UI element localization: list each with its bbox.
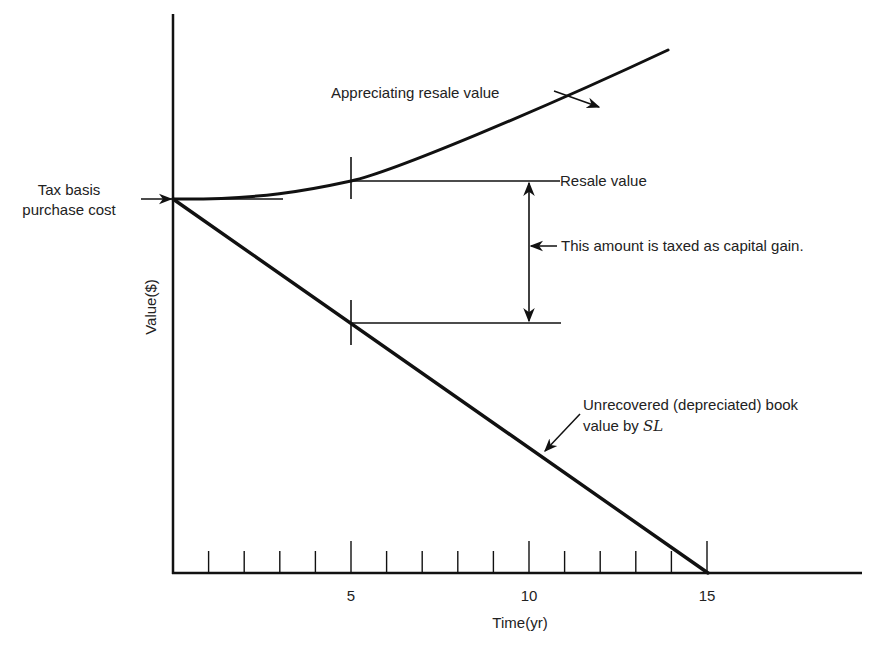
y-axis-label: Value($): [142, 279, 159, 335]
unrecovered-label-prefix: value by: [583, 417, 643, 434]
unrecovered-label-line1: Unrecovered (depreciated) book: [583, 396, 799, 413]
sl-method-label: SL: [643, 417, 663, 435]
x-tick-10: 10: [521, 587, 538, 604]
tax-basis-label-line2: purchase cost: [22, 201, 116, 218]
x-axis-major-ticks: [351, 541, 707, 573]
x-tick-15: 15: [699, 587, 716, 604]
unrecovered-label-line2: value by SL: [583, 417, 663, 435]
capital-gain-label: This amount is taxed as capital gain.: [561, 237, 804, 254]
x-axis-label: Time(yr): [492, 614, 547, 631]
sl-book-value-line: [173, 199, 708, 573]
x-tick-5: 5: [347, 587, 355, 604]
x-axis-minor-ticks: [209, 551, 672, 573]
tax-basis-label-line1: Tax basis: [38, 181, 101, 198]
appreciating-resale-label: Appreciating resale value: [331, 84, 499, 101]
capital-gain-diagram: 5 10 15 Time(yr) Value($) Tax basis purc…: [0, 0, 877, 646]
resale-value-label: Resale value: [560, 172, 647, 189]
unrecovered-pointer-arrow: [545, 414, 580, 451]
